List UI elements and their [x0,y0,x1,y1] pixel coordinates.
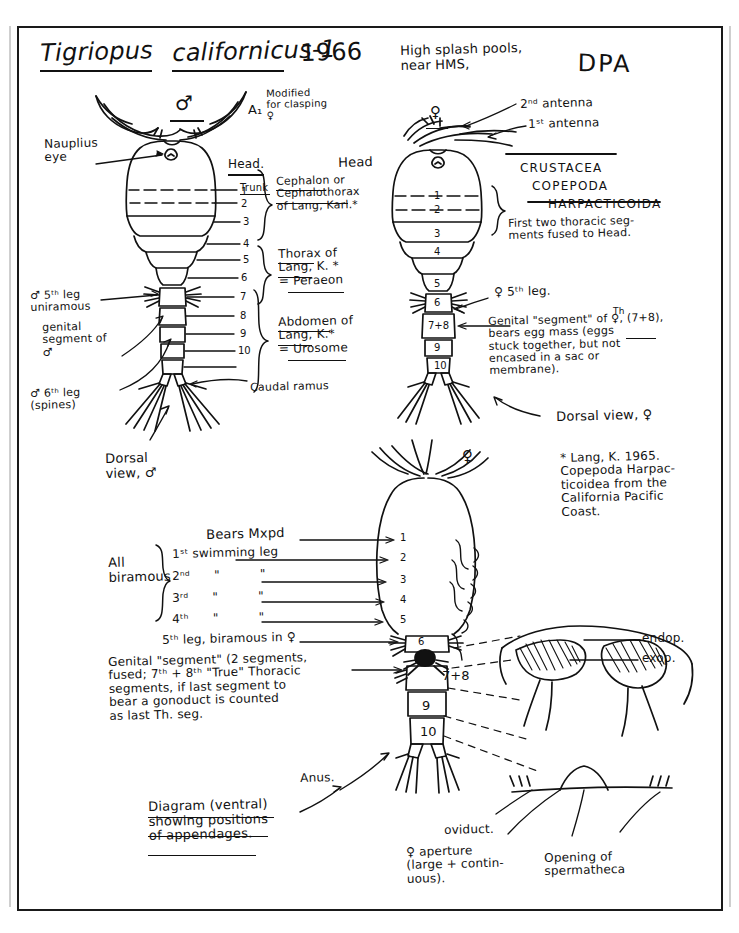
male-segment-number: 9 [240,328,246,339]
taxon-subclass: COPEPODA [532,180,608,193]
abdomen-bracket-label: Abdomen of Lang, K.* = Urosome [278,314,354,356]
lang-abdomen-underline [278,345,312,346]
swimming-leg-4-label: 4ᵗʰ " " [172,611,265,627]
anus-label: Anus. [300,771,335,785]
locality-note: High splash pools, near HMS, [400,41,523,73]
male-genital-segment-label: genital segment of ♂ [42,320,107,358]
female-segment-number: 1 [434,190,440,201]
female-sex-symbol: ♀ [430,104,441,121]
notebook-page: Tigriopus californicus-1 1966 High splas… [0,0,739,933]
female-segment-number: 4 [434,246,440,257]
male-antenna-label: A₁ [248,103,263,118]
male-segment-number: 3 [243,216,249,227]
caudal-ramus-label: Caudal ramus [250,380,329,394]
ventral-segment-number: 5 [400,614,406,625]
cephalon-underline [276,190,326,191]
female-segment-number: 6 [434,297,440,308]
fused-segments-note: First two thoracic seg- ments fused to H… [508,215,635,243]
female-symbol-underline [426,128,448,129]
caption-underline-1 [148,817,274,818]
ventral-segment-number: 7+8 [442,668,469,683]
male-head-underline [228,174,264,176]
endopod-label: endop. [642,632,685,645]
male-sex-symbol: ♂ [175,92,193,114]
cephalon-bracket-label: Cephalon or Cephalothorax of Lang, Karl.… [276,174,360,213]
lang-thorax-underline [278,277,312,278]
male-symbol-underline [170,120,204,122]
female-segment-number: 10 [434,360,447,371]
lang-footnote: * Lang, K. 1965. Copepoda Harpac- ticoid… [560,449,676,519]
nauplius-eye-label: Nauplius eye [44,137,98,165]
oviduct-label: oviduct. [444,823,494,838]
ventral-segment-number: 9 [422,698,430,713]
scan-edge-left [9,26,11,907]
ventral-segment-number: 10 [420,724,437,739]
male-segment-number: 2 [241,198,247,209]
male-sixth-leg-label: ♂ 6ᵗʰ leg (spines) [30,387,81,413]
female-segment-number: 7+8 [428,320,449,331]
second-antenna-label: 2ⁿᵈ antenna [520,96,593,111]
female-segment-number: 9 [434,342,440,353]
male-segment-number: 1 [241,186,247,197]
swimming-leg-1-label: 1ˢᵗ swimming leg [172,545,278,561]
title-genus-underline [40,70,152,72]
male-head-label: Head. [228,158,264,171]
female-segment-number: 5 [434,278,440,289]
male-segment-number: 7 [240,291,246,302]
ventral-segment-number: 1 [400,532,406,543]
male-view-caption: Dorsal view, ♂ [105,451,157,481]
caption-underline-3 [148,855,256,856]
ventral-segment-number: 4 [400,594,406,605]
taxon-class: CRUSTACEA [520,162,602,175]
ventral-segment-number: 3 [400,574,406,585]
first-antenna-label: 1ˢᵗ antenna [528,116,600,131]
female-aperture-label: ♀ aperture (large + contin- uous). [406,844,504,887]
male-segment-number: 5 [243,254,249,265]
exopod-label: exop. [642,652,676,665]
male-segment-number: 4 [243,238,249,249]
author-initials: DPA [577,50,631,78]
urosome-underline [288,360,346,361]
bears-mxpd-label: Bears Mxpd [206,526,285,542]
caption-underline-2 [148,836,268,837]
female-fifth-leg-label: ♀ 5ᵗʰ leg. [494,285,551,300]
thorax-bracket-label: Thorax of Lang, K. * = Peraeon [278,246,343,288]
female-genital-superscript: Th [613,306,625,316]
taxon-order: HARPACTICOIDA [548,198,662,211]
all-biramous-label: All biramous [108,554,171,585]
swimming-leg-2-label: 2ⁿᵈ " " [172,568,266,584]
female-genital-note: Genital "segment" of ♀, (7+8), bears egg… [488,312,665,378]
male-segment-number: 8 [240,310,246,321]
ventral-genital-note: Genital "segment" (2 segments, fused; 7ᵗ… [108,651,309,723]
male-segment-number: 10 [238,345,251,356]
not-emphasis-underline [626,338,656,339]
abdomen-underline [278,331,330,332]
male-segment-number: 6 [241,272,247,283]
male-antenna-note: Modified for clasping ♀ [266,87,328,122]
female-head-label: Head [338,155,373,170]
swimming-leg-3-label: 3ʳᵈ " " [172,590,264,606]
scan-edge-right [729,26,731,907]
page-title-genus: Tigriopus [40,37,153,67]
female-view-caption: Dorsal view, ♀ [556,408,653,425]
male-fifth-leg-label: ♂ 5ᵗʰ leg uniramous [30,289,91,315]
ventral-segment-number: 2 [400,552,406,563]
ventral-segment-number: 6 [418,636,424,647]
page-title-year: 1966 [300,38,363,66]
peraeon-underline [288,292,344,293]
spermatheca-label: Opening of spermatheca [544,850,626,879]
ventral-female-symbol: ♀ [462,448,473,465]
female-segment-number: 3 [434,228,440,239]
female-segment-number: 2 [434,204,440,215]
title-species-underline [172,70,284,72]
thorax-underline [278,263,314,264]
cephalothorax-underline [276,203,348,204]
